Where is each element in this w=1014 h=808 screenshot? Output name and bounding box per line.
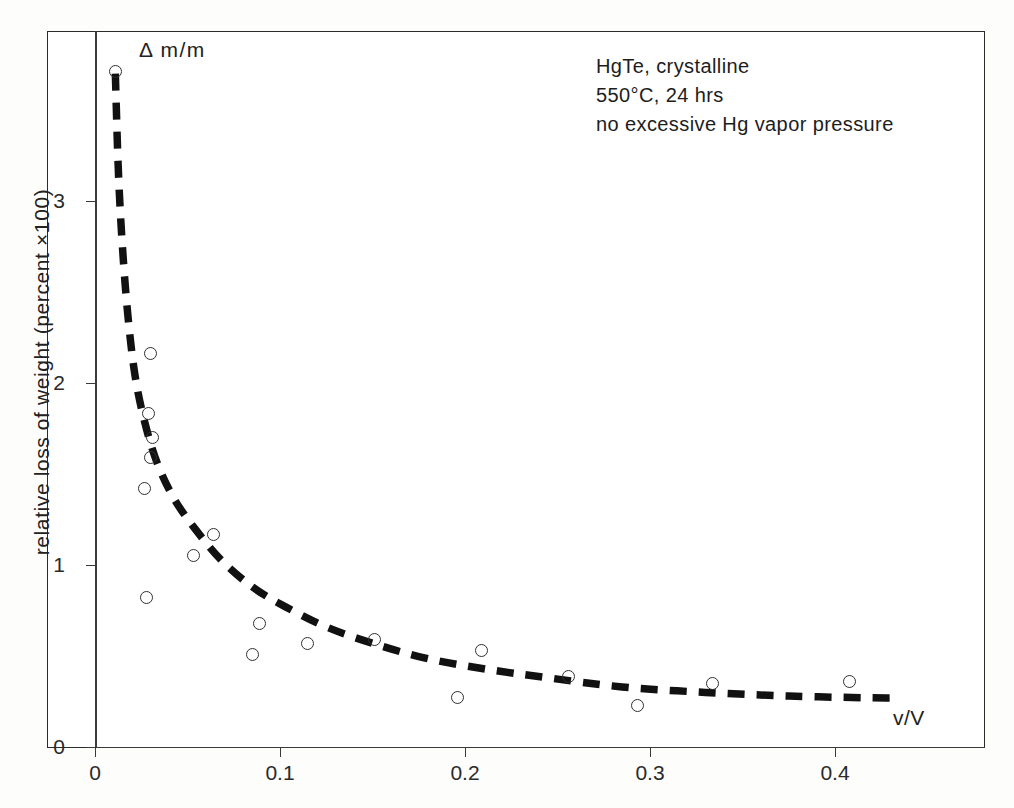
x-tick-0 [95, 747, 96, 757]
x-tick-label-4: 0.4 [820, 761, 849, 785]
x-tick-2 [465, 747, 466, 757]
x-tick-label-2: 0.2 [450, 761, 479, 785]
plot-frame [47, 31, 985, 748]
x-tick-label-1: 0.1 [265, 761, 294, 785]
x-tick-4 [835, 747, 836, 757]
figure-canvas: 0123 00.10.20.30.4 Δ m/m relative loss o… [0, 0, 1014, 808]
x-tick-label-3: 0.3 [635, 761, 664, 785]
x-tick-label-0: 0 [89, 761, 101, 785]
x-tick-1 [280, 747, 281, 757]
x-tick-3 [650, 747, 651, 757]
